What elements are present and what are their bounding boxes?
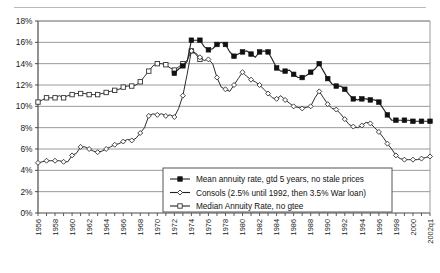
legend-label-2: Median Annuity Rate, no gtee <box>196 202 304 211</box>
data-point-marker <box>146 113 151 118</box>
x-tick-label-1972: 1972 <box>170 219 179 235</box>
data-point-marker <box>172 115 177 120</box>
x-tick-label-1978: 1978 <box>221 219 230 235</box>
x-tick-label-1958: 1958 <box>51 219 60 235</box>
data-point-marker <box>411 119 416 124</box>
data-point-marker <box>95 150 100 155</box>
data-point-marker <box>334 84 339 89</box>
data-point-marker <box>419 119 424 124</box>
data-point-marker <box>181 64 186 69</box>
data-point-marker <box>419 156 424 161</box>
data-point-marker <box>112 88 116 92</box>
annuity-rates-chart: 0%2%4%6%8%10%12%14%16%18%195619581960196… <box>0 0 440 273</box>
x-tick-label-1960: 1960 <box>68 219 77 235</box>
data-point-marker <box>291 72 296 77</box>
data-point-marker <box>70 153 75 158</box>
x-tick-label-1956: 1956 <box>34 219 43 235</box>
data-point-marker <box>317 61 322 66</box>
y-tick-label-4: 4% <box>20 165 33 175</box>
x-tick-label-1962: 1962 <box>85 219 94 235</box>
legend: Mean annuity rate, gtd 5 years, no stale… <box>163 168 392 212</box>
data-point-marker <box>325 76 330 81</box>
data-point-marker <box>36 100 40 104</box>
data-point-marker <box>428 154 433 159</box>
x-tick-label-1970: 1970 <box>153 219 162 235</box>
chart-svg: 0%2%4%6%8%10%12%14%16%18%195619581960196… <box>0 0 440 273</box>
data-point-marker <box>172 71 177 76</box>
x-tick-label-1968: 1968 <box>136 219 145 235</box>
y-tick-label-6: 6% <box>20 144 33 154</box>
data-point-marker <box>402 118 407 123</box>
data-point-marker <box>308 104 313 109</box>
x-tick-label-1998: 1998 <box>392 219 401 235</box>
data-point-marker <box>164 63 168 67</box>
data-point-marker <box>402 157 407 162</box>
data-point-marker <box>214 75 219 80</box>
data-point-marker <box>232 83 237 88</box>
y-tick-label-16: 16% <box>16 37 33 47</box>
y-tick-label-2: 2% <box>20 187 33 197</box>
data-point-marker <box>342 87 347 92</box>
y-tick-label-12: 12% <box>16 80 33 90</box>
data-point-marker <box>300 75 305 80</box>
y-tick-label-10: 10% <box>16 101 33 111</box>
legend-label-0: Mean annuity rate, gtd 5 years, no stale… <box>196 175 364 184</box>
data-point-marker <box>53 158 58 163</box>
y-axis: 0%2%4%6%8%10%12%14%16%18% <box>16 16 38 218</box>
data-point-marker <box>351 124 356 129</box>
x-tick-label-1992: 1992 <box>340 219 349 235</box>
y-tick-label-14: 14% <box>16 59 33 69</box>
data-point-marker <box>249 52 254 57</box>
x-tick-label-1996: 1996 <box>375 219 384 235</box>
data-point-marker <box>87 92 91 96</box>
data-point-marker <box>155 61 159 65</box>
data-point-marker <box>70 92 74 96</box>
data-point-marker <box>95 92 99 96</box>
data-point-marker <box>240 50 245 55</box>
series-median-annuity <box>36 49 202 105</box>
y-tick-label-8: 8% <box>20 123 33 133</box>
data-point-marker <box>257 50 262 55</box>
data-point-marker <box>274 66 279 71</box>
data-point-marker <box>385 113 390 118</box>
x-tick-label-1964: 1964 <box>102 219 111 235</box>
y-tick-label-18: 18% <box>16 16 33 26</box>
gridlines <box>38 21 430 192</box>
data-point-marker <box>121 85 125 89</box>
data-point-marker <box>121 139 126 144</box>
data-point-marker <box>215 42 220 47</box>
data-point-marker <box>78 91 82 95</box>
data-point-marker <box>394 118 399 123</box>
data-point-marker <box>428 119 433 124</box>
data-point-marker <box>44 158 49 163</box>
x-tick-label-1976: 1976 <box>204 219 213 235</box>
x-tick-label-1986: 1986 <box>289 219 298 235</box>
data-point-marker <box>351 97 356 102</box>
x-tick-label-1990: 1990 <box>323 219 332 235</box>
data-point-marker <box>223 87 228 92</box>
x-tick-label-1980: 1980 <box>238 219 247 235</box>
data-point-marker <box>232 54 237 59</box>
data-point-marker <box>129 138 134 143</box>
data-point-marker <box>178 177 183 182</box>
data-point-marker <box>53 96 57 100</box>
data-point-marker <box>178 204 182 208</box>
data-point-marker <box>36 160 41 165</box>
data-point-marker <box>223 42 228 47</box>
data-point-marker <box>87 147 92 152</box>
series-line <box>38 51 430 163</box>
series-consols <box>36 48 433 165</box>
data-point-marker <box>317 89 322 94</box>
x-tick-label-1974: 1974 <box>187 219 196 235</box>
data-point-marker <box>189 38 194 43</box>
data-point-marker <box>104 147 109 152</box>
data-point-marker <box>283 69 288 74</box>
x-tick-label-1982: 1982 <box>255 219 264 235</box>
data-point-marker <box>360 97 365 102</box>
x-tick-label-1966: 1966 <box>119 219 128 235</box>
data-point-marker <box>180 93 185 98</box>
data-point-marker <box>206 48 211 53</box>
data-point-marker <box>104 90 108 94</box>
x-tick-label-2000: 2000 <box>409 219 418 235</box>
data-point-marker <box>368 98 373 103</box>
